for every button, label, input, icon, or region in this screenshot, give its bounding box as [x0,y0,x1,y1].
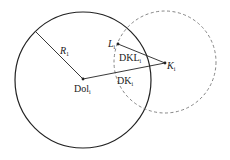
l-label: Li [107,38,116,50]
dkl-label: DKLi [119,52,142,64]
dk-label: DKi [117,75,133,87]
k-point [164,62,167,65]
diagram-canvas: Doli Ki Li R1 DKLi DKi [0,0,230,160]
k-label: Ki [166,60,176,72]
dol-label: Doli [74,83,91,95]
r1-label: R1 [59,45,69,57]
l-point [117,43,120,46]
dol-point [82,78,85,81]
